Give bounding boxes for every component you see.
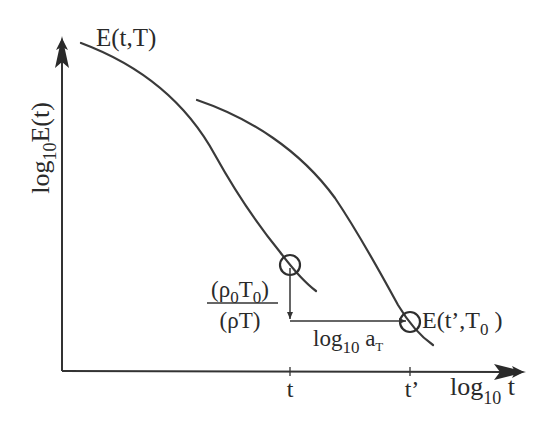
- vertical-shift-factor: (ρ0T0) (ρT): [207, 277, 278, 333]
- tick-label-t: t: [287, 376, 294, 402]
- tick-label-t-prime: t’: [405, 376, 420, 402]
- y-axis-label: log10E(t): [26, 102, 60, 194]
- curve-label-E-t-prime-T0: E(t’,T0 ): [422, 307, 502, 339]
- curve-E-t-T: [81, 43, 316, 291]
- shift-denominator: (ρT): [220, 308, 261, 333]
- x-axis-label: log10 t: [450, 372, 516, 408]
- tts-shift-diagram: log10E(t) log10 t t t’ E(t,T) E(t’,T0 ) …: [0, 0, 546, 428]
- horizontal-shift-factor: log10 aT: [313, 326, 383, 357]
- curve-label-E-t-T: E(t,T): [96, 24, 156, 52]
